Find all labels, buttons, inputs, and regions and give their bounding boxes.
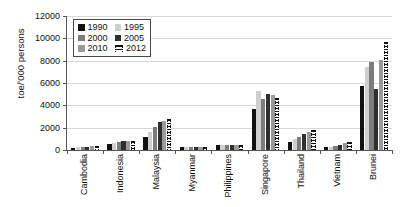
bar <box>343 143 347 150</box>
bar <box>239 145 243 150</box>
x-axis-label-cell: Malaysia <box>138 152 174 207</box>
legend-swatch <box>115 35 122 42</box>
bar <box>76 147 80 150</box>
bar-group <box>284 16 320 150</box>
x-axis-label-indonesia: Indonesia <box>115 154 125 193</box>
bar <box>338 145 342 150</box>
bar-group <box>320 16 356 150</box>
bar-group <box>248 16 284 150</box>
x-axis-label-cell: Myanmar <box>174 152 210 207</box>
x-axis-label-vietnam: Vietnam <box>332 154 342 187</box>
bar <box>143 137 147 150</box>
bar <box>302 134 306 150</box>
y-axis-tick-label: 4000 <box>40 100 60 110</box>
bar <box>220 145 224 150</box>
bar <box>252 109 256 150</box>
bar <box>275 98 279 150</box>
x-axis-label-singapore: Singapore <box>260 154 270 195</box>
bar <box>148 132 152 150</box>
bar <box>90 146 94 150</box>
bar <box>184 147 188 150</box>
x-axis-labels: CambodiaIndonesiaMalaysiaMyanmarPhilippi… <box>66 152 391 207</box>
legend-label: 2012 <box>126 44 146 53</box>
legend-item-2010: 2010 <box>78 44 108 53</box>
x-axis-label-cell: Thailand <box>283 152 319 207</box>
bar <box>365 67 369 150</box>
legend-swatch <box>115 45 124 53</box>
bar <box>189 147 193 150</box>
bar-chart: toe/'000 persons 02000400060008000100001… <box>0 0 407 207</box>
bar <box>225 145 229 150</box>
y-axis-title: toe/'000 persons <box>15 4 26 124</box>
legend-item-1995: 1995 <box>115 23 147 32</box>
x-axis-label-cell: Singapore <box>247 152 283 207</box>
bar <box>307 132 311 150</box>
legend-label: 2010 <box>88 44 108 53</box>
bar <box>369 62 373 150</box>
x-axis-label-cell: Vietnam <box>319 152 355 207</box>
bar <box>379 60 383 150</box>
legend-item-2012: 2012 <box>115 44 147 53</box>
bar <box>95 146 99 150</box>
y-axis-tick-label: 0 <box>55 145 60 155</box>
bar <box>384 42 388 150</box>
x-axis-label-philippines: Philippines <box>223 154 233 198</box>
legend-item-2000: 2000 <box>78 34 108 43</box>
bar <box>230 145 234 150</box>
bar <box>117 142 121 150</box>
bar <box>162 121 166 150</box>
bar <box>126 141 130 150</box>
bar <box>180 147 184 150</box>
bar <box>261 99 265 150</box>
bar <box>194 147 198 150</box>
bar <box>256 91 260 150</box>
y-axis-tick-label: 2000 <box>40 123 60 133</box>
bar <box>297 137 301 150</box>
y-axis-tick-label: 6000 <box>40 78 60 88</box>
bar <box>85 147 89 150</box>
legend-item-1990: 1990 <box>78 23 108 32</box>
bar <box>81 147 85 150</box>
x-axis-label-myanmar: Myanmar <box>187 154 197 192</box>
bar <box>198 147 202 150</box>
y-axis-tick-label: 8000 <box>40 56 60 66</box>
x-axis-label-brunei: Brunei <box>368 154 378 180</box>
bar <box>131 141 135 150</box>
x-axis-label-thailand: Thailand <box>296 154 306 189</box>
bar <box>347 142 351 150</box>
x-axis-label-cell: Indonesia <box>102 152 138 207</box>
bar <box>71 148 75 150</box>
bar <box>107 144 111 150</box>
y-axis-tick-label: 12000 <box>35 11 60 21</box>
legend-label: 2000 <box>88 34 108 43</box>
bar <box>167 119 171 150</box>
legend-item-2005: 2005 <box>115 34 147 43</box>
legend-label: 1990 <box>88 23 108 32</box>
bar <box>311 130 315 150</box>
y-axis-tick-label: 10000 <box>35 33 60 43</box>
bar <box>216 145 220 150</box>
x-axis-label-cell: Brunei <box>355 152 391 207</box>
x-axis-label-cell: Philippines <box>210 152 246 207</box>
bar <box>158 122 162 150</box>
bar <box>121 141 125 150</box>
legend-label: 2005 <box>124 34 144 43</box>
bar <box>324 147 328 150</box>
x-axis-label-malaysia: Malaysia <box>151 154 161 190</box>
legend-swatch <box>78 24 85 31</box>
x-axis-label-cell: Cambodia <box>66 152 102 207</box>
bar <box>360 86 364 150</box>
bar <box>266 94 270 150</box>
bar <box>112 143 116 150</box>
bar <box>288 142 292 150</box>
bar <box>374 89 378 150</box>
x-axis-tick <box>392 150 393 154</box>
bar <box>293 139 297 150</box>
legend-swatch <box>115 24 122 31</box>
bar <box>333 146 337 150</box>
bar-group <box>356 16 392 150</box>
legend: 199019952000200520102012 <box>73 19 151 57</box>
legend-label: 1995 <box>124 23 144 32</box>
bar <box>271 95 275 150</box>
bar <box>329 147 333 150</box>
